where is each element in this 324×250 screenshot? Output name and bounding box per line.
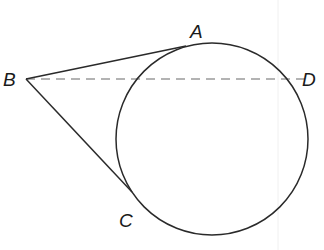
label-point-b: B: [3, 69, 16, 90]
background: [0, 0, 324, 250]
label-point-c: C: [119, 210, 133, 231]
label-point-a: A: [189, 21, 203, 42]
geometry-diagram: A B C D: [0, 0, 324, 250]
label-point-d: D: [302, 69, 316, 90]
